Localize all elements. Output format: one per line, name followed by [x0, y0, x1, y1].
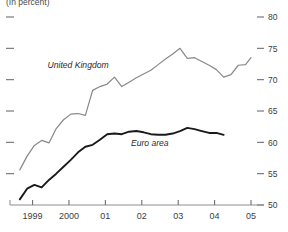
y-tick-label: 65 [268, 106, 278, 116]
series-lines [20, 48, 251, 199]
x-tick-label: 04 [210, 211, 220, 221]
x-tick-label: 01 [100, 211, 110, 221]
x-tick-label: 02 [137, 211, 147, 221]
y-axis-left [6, 17, 14, 174]
series-label-united-kingdom: United Kingdom [47, 60, 108, 70]
y-tick-label: 70 [268, 75, 278, 85]
x-axis: 199920000102030405 [10, 200, 264, 221]
y-tick-label: 55 [268, 169, 278, 179]
x-tick-label: 03 [173, 211, 183, 221]
series-label-euro-area: Euro area [131, 138, 169, 148]
x-tick-label: 1999 [23, 211, 43, 221]
line-chart: 50556065707580 199920000102030405 United… [0, 0, 288, 232]
chart-unit-note: (In percent) [6, 0, 49, 7]
series-line-euro-area [20, 128, 224, 199]
y-tick-label: 80 [268, 12, 278, 22]
y-axis-right: 50556065707580 [257, 12, 278, 210]
x-tick-label: 2000 [59, 211, 79, 221]
y-tick-label: 60 [268, 138, 278, 148]
y-tick-label: 75 [268, 44, 278, 54]
chart-container: (In percent) 50556065707580 199920000102… [0, 0, 288, 232]
y-tick-label: 50 [268, 200, 278, 210]
x-tick-label: 05 [246, 211, 256, 221]
